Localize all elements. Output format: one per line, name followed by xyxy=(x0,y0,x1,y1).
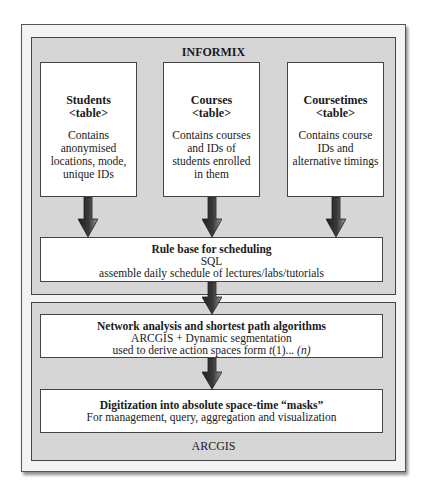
rule-base-line2: assemble daily schedule of lectures/labs… xyxy=(41,267,382,279)
network-analysis-box: Network analysis and shortest path algor… xyxy=(40,314,383,358)
coursetimes-subtitle: <table> xyxy=(288,107,383,120)
network-line2-prefix: used to derive action spaces form xyxy=(112,344,268,356)
digitization-title: Digitization into absolute space-time “m… xyxy=(41,399,382,411)
arrow-down-icon xyxy=(326,197,346,237)
courses-desc: Contains courses and IDs of students enr… xyxy=(164,129,259,181)
students-desc: Contains anonymised locations, mode, uni… xyxy=(41,129,136,181)
digitization-box: Digitization into absolute space-time “m… xyxy=(40,389,383,433)
network-title: Network analysis and shortest path algor… xyxy=(41,320,382,332)
digitization-line1: For management, query, aggregation and v… xyxy=(41,411,382,423)
arcgis-label: ARCGIS xyxy=(32,439,395,454)
network-line1: ARCGIS + Dynamic segmentation xyxy=(41,332,382,344)
courses-table-box: Courses <table> Contains courses and IDs… xyxy=(163,62,260,197)
courses-subtitle: <table> xyxy=(164,107,259,120)
network-line2-n: (n) xyxy=(297,344,310,356)
arrow-down-icon xyxy=(78,197,98,237)
rule-base-title: Rule base for scheduling xyxy=(41,243,382,255)
arrow-down-icon xyxy=(202,358,222,389)
coursetimes-table-box: Coursetimes <table> Contains course IDs … xyxy=(287,62,384,197)
network-line2: used to derive action spaces form t(1)..… xyxy=(41,344,382,356)
informix-label: INFORMIX xyxy=(32,45,395,60)
arrow-down-icon xyxy=(202,197,222,237)
rule-base-line1: SQL xyxy=(41,255,382,267)
network-line2-mid: (1)... xyxy=(272,344,297,356)
students-table-box: Students <table> Contains anonymised loc… xyxy=(40,62,137,197)
students-subtitle: <table> xyxy=(41,107,136,120)
coursetimes-desc: Contains course IDs and alternative timi… xyxy=(288,129,383,168)
rule-base-box: Rule base for scheduling SQL assemble da… xyxy=(40,237,383,282)
arrow-down-icon xyxy=(202,282,222,314)
